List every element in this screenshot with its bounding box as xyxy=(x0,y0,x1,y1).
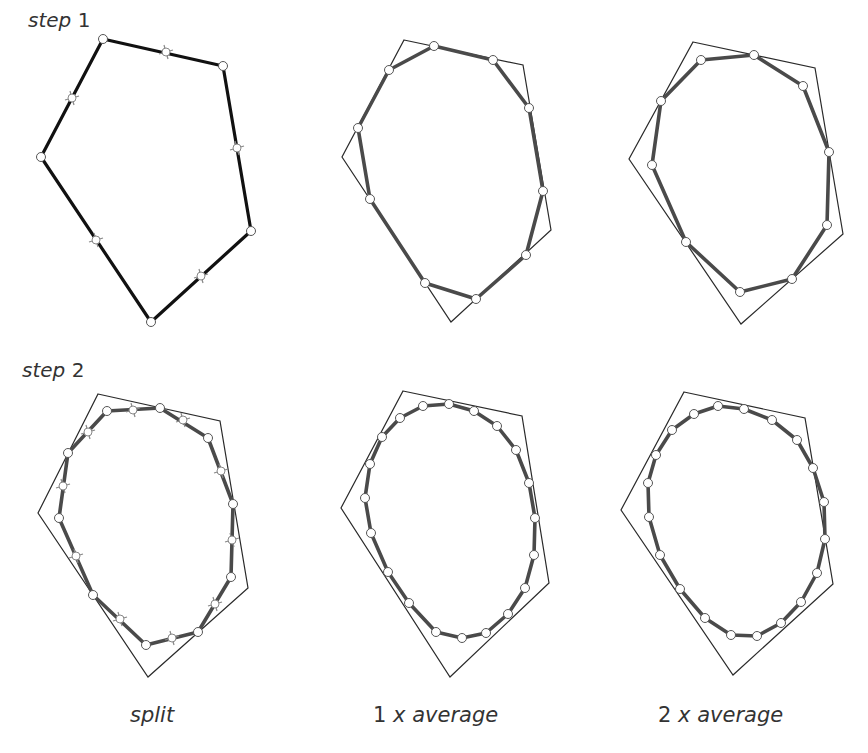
vertex-point xyxy=(103,407,112,416)
vertex-point xyxy=(522,251,531,260)
vertex-point xyxy=(697,56,706,65)
panel-row1-1-x-average xyxy=(342,40,551,322)
caption-split: split xyxy=(130,703,175,727)
vertex-point xyxy=(644,479,653,488)
vertex-point xyxy=(788,275,797,284)
vertex-point xyxy=(652,451,661,460)
panel-row2-2-x-average xyxy=(621,392,833,675)
midpoint-marker xyxy=(65,91,79,105)
vertex-point xyxy=(531,514,540,523)
vertex-point xyxy=(227,573,236,582)
vertex-point xyxy=(645,513,654,522)
refined-polygon xyxy=(365,404,535,638)
row-label-step-1: step 1 xyxy=(28,8,90,32)
vertex-point xyxy=(472,295,481,304)
vertex-point xyxy=(740,405,749,414)
vertex-point xyxy=(714,402,723,411)
vertex-point xyxy=(799,82,808,91)
vertex-point xyxy=(813,569,822,578)
vertex-point xyxy=(525,479,534,488)
vertex-point xyxy=(385,66,394,75)
caption-1x-average: 1 x average xyxy=(373,703,498,727)
vertex-point xyxy=(64,449,73,458)
vertex-point xyxy=(489,56,498,65)
vertex-point xyxy=(432,628,441,637)
vertex-point xyxy=(421,279,430,288)
vertex-point xyxy=(470,407,479,416)
vertex-point xyxy=(512,446,521,455)
vertex-point xyxy=(419,402,428,411)
vertex-point xyxy=(354,124,363,133)
vertex-point xyxy=(777,619,786,628)
vertex-point xyxy=(821,535,830,544)
refined-polygon xyxy=(59,408,233,645)
vertex-point xyxy=(396,414,405,423)
vertex-point xyxy=(458,634,467,643)
vertex-point xyxy=(797,598,806,607)
vertex-point xyxy=(768,416,777,425)
vertex-point xyxy=(482,629,491,638)
vertex-point xyxy=(504,610,513,619)
vertex-point xyxy=(809,464,818,473)
control-polygon xyxy=(38,394,248,677)
vertex-point xyxy=(727,631,736,640)
row-label-step-2: step 2 xyxy=(22,358,84,382)
vertex-point xyxy=(378,433,387,442)
vertex-point xyxy=(656,551,665,560)
vertex-point xyxy=(823,221,832,230)
vertex-point xyxy=(648,161,657,170)
vertex-point xyxy=(219,62,228,71)
vertex-point xyxy=(37,153,46,162)
vertex-point xyxy=(384,568,393,577)
vertex-point xyxy=(405,599,414,608)
refined-polygon xyxy=(358,46,543,299)
vertex-point xyxy=(493,422,502,431)
vertex-point xyxy=(55,514,64,523)
vertex-point xyxy=(229,500,238,509)
vertex-point xyxy=(793,436,802,445)
caption-2x-average: 2 x average xyxy=(658,703,783,727)
vertex-point xyxy=(99,35,108,44)
vertex-point xyxy=(682,238,691,247)
vertex-point xyxy=(820,498,829,507)
vertex-point xyxy=(750,51,759,60)
vertex-point xyxy=(142,641,151,650)
vertex-point xyxy=(247,227,256,236)
vertex-point xyxy=(361,494,370,503)
panel-row2-split xyxy=(38,394,248,677)
vertex-point xyxy=(204,434,213,443)
vertex-point xyxy=(539,187,548,196)
panel-row1-2-x-average xyxy=(629,42,843,324)
vertex-point xyxy=(753,632,762,641)
vertex-point xyxy=(367,529,376,538)
vertex-point xyxy=(366,195,375,204)
control-polygon xyxy=(342,40,551,322)
panel-row1-split xyxy=(37,35,256,327)
vertex-point xyxy=(366,460,375,469)
vertex-point xyxy=(521,584,530,593)
vertex-point xyxy=(530,551,539,560)
vertex-point xyxy=(156,404,165,413)
vertex-point xyxy=(525,104,534,113)
vertex-point xyxy=(676,585,685,594)
vertex-point xyxy=(736,288,745,297)
panels xyxy=(37,35,844,678)
vertex-point xyxy=(445,400,454,409)
vertex-point xyxy=(657,97,666,106)
subdivision-diagram: step 1 step 2 split 1 x average 2 x aver… xyxy=(0,0,868,753)
vertex-point xyxy=(825,148,834,157)
vertex-point xyxy=(89,591,98,600)
vertex-point xyxy=(147,318,156,327)
vertex-point xyxy=(668,426,677,435)
vertex-point xyxy=(701,614,710,623)
vertex-point xyxy=(690,410,699,419)
panel-row2-1-x-average xyxy=(341,391,549,677)
vertex-point xyxy=(194,628,203,637)
base-polygon xyxy=(41,39,251,322)
vertex-point xyxy=(430,42,439,51)
